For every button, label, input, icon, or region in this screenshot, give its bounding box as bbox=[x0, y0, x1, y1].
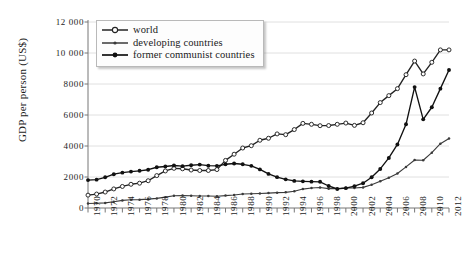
x-axis-tick-label: 1992 bbox=[281, 196, 291, 216]
x-axis-tick-label: 1998 bbox=[332, 196, 342, 216]
legend-key-small-dot-icon bbox=[102, 38, 128, 48]
legend-item[interactable]: former communist countries bbox=[102, 49, 255, 62]
legend-item[interactable]: developing countries bbox=[102, 37, 255, 50]
x-axis-tick-label: 1972 bbox=[109, 196, 119, 216]
legend-item[interactable]: world bbox=[102, 24, 255, 37]
x-axis-tick-label: 2006 bbox=[401, 196, 411, 216]
x-axis-tick-label: 1978 bbox=[160, 196, 170, 216]
x-axis-tick-label: 1980 bbox=[178, 196, 188, 216]
x-axis-tick-label: 2012 bbox=[453, 196, 463, 216]
x-axis-tick-label: 1986 bbox=[229, 196, 239, 216]
legend-key-open-circle-icon bbox=[102, 25, 128, 35]
legend-label: developing countries bbox=[133, 37, 223, 50]
x-axis-tick-label: 2010 bbox=[435, 196, 445, 216]
x-axis-tick-label: 1988 bbox=[246, 196, 256, 216]
legend-key-filled-circle-icon bbox=[102, 50, 128, 60]
legend-label: world bbox=[133, 24, 158, 37]
x-axis-tick-label: 2004 bbox=[384, 196, 394, 216]
x-axis-tick-label: 1982 bbox=[195, 196, 205, 216]
chart-legend: world developing countries former commun… bbox=[96, 20, 264, 67]
x-axis-tick-label: 2002 bbox=[367, 196, 377, 216]
x-axis-tick-label: 1990 bbox=[264, 196, 274, 216]
x-axis-tick-label: 2000 bbox=[349, 196, 359, 216]
x-axis-tick-label: 1976 bbox=[143, 196, 153, 216]
x-axis-tick-label: 1996 bbox=[315, 196, 325, 216]
x-axis-tick-label: 1984 bbox=[212, 196, 222, 216]
legend-label: former communist countries bbox=[133, 49, 255, 62]
x-axis-tick-label: 1994 bbox=[298, 196, 308, 216]
x-axis-tick-label: 1974 bbox=[126, 196, 136, 216]
x-axis-tick-label: 2008 bbox=[418, 196, 428, 216]
x-axis-tick-label: 1970 bbox=[92, 196, 102, 216]
